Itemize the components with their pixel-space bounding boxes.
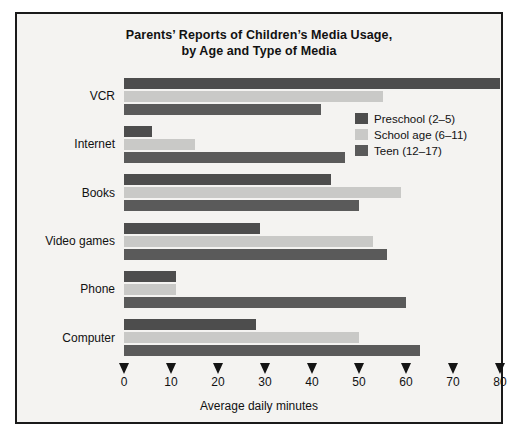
x-axis-tick-label: 0 [121,375,128,389]
legend-item: Preschool (2–5) [355,111,467,126]
bar [124,271,176,282]
x-axis-tick-label: 50 [352,375,365,389]
chart-title-line-1: Parents’ Reports of Children’s Media Usa… [126,28,392,42]
legend-item: Teen (12–17) [355,143,467,158]
bar [124,152,345,163]
bar [124,200,359,211]
bar [124,187,401,198]
x-axis-tick-label: 10 [164,375,177,389]
bar [124,174,331,185]
x-axis-tick-marker [401,363,411,374]
bar-group-video-games: Video games [124,217,500,265]
x-axis-tick-marker [213,363,223,374]
bar [124,78,500,89]
bar [124,236,373,247]
bar [124,345,420,356]
y-axis-tick-label: Computer [62,331,115,345]
y-axis-tick-label: VCR [90,89,115,103]
bar [124,297,406,308]
legend-label: Preschool (2–5) [374,113,455,125]
x-axis-tick-label: 70 [446,375,459,389]
chart-title: Parents’ Reports of Children’s Media Usa… [17,27,501,59]
x-axis-label: Average daily minutes [17,399,501,413]
x-axis-tick-marker [354,363,364,374]
bar-group-books: Books [124,169,500,217]
y-axis-tick-label: Internet [74,137,115,151]
x-axis-tick-marker [260,363,270,374]
chart-legend: Preschool (2–5)School age (6–11)Teen (12… [355,111,467,159]
bar [124,319,256,330]
x-axis-tick-marker [119,363,129,374]
y-axis-tick-label: Books [82,186,115,200]
bar [124,91,383,102]
bar [124,104,321,115]
chart-frame: Parents’ Reports of Children’s Media Usa… [15,12,503,424]
bar [124,249,387,260]
x-axis-tick-marker [307,363,317,374]
x-axis-tick-label: 60 [399,375,412,389]
x-axis-tick-label: 40 [305,375,318,389]
bar [124,139,195,150]
x-axis-tick-marker [166,363,176,374]
y-axis-tick-label: Video games [45,234,115,248]
x-axis-tick-label: 30 [258,375,271,389]
y-axis-tick-label: Phone [80,282,115,296]
bar-group-computer: Computer [124,314,500,362]
x-axis-tick-label: 80 [493,375,506,389]
bar [124,223,260,234]
legend-swatch-icon [355,129,368,140]
bar [124,126,152,137]
bar-group-phone: Phone [124,265,500,313]
x-axis-tick-marker [448,363,458,374]
legend-item: School age (6–11) [355,127,467,142]
x-axis-tick-label: 20 [211,375,224,389]
x-axis-tick-marker [495,363,505,374]
legend-swatch-icon [355,145,368,156]
chart-title-line-2: by Age and Type of Media [17,43,501,59]
legend-label: School age (6–11) [374,129,467,141]
bar [124,284,176,295]
bar [124,332,359,343]
legend-swatch-icon [355,113,368,124]
legend-label: Teen (12–17) [374,145,442,157]
